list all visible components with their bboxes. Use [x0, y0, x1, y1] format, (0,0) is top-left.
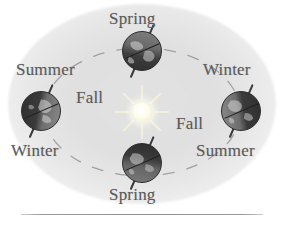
sun	[126, 96, 158, 128]
globe-sphere	[221, 91, 261, 131]
globe-sphere	[21, 91, 61, 131]
globe-bottom	[119, 140, 165, 186]
label-center-left-fall: Fall	[76, 89, 103, 106]
sun-core	[132, 102, 152, 122]
globe-right	[218, 88, 264, 134]
globe-top	[119, 28, 165, 74]
label-upper-right-winter: Winter	[203, 61, 251, 78]
label-top-spring: Spring	[109, 10, 156, 27]
label-upper-left-summer: Summer	[16, 61, 75, 78]
diagram-canvas: Spring Summer Winter Fall Fall Winter Su…	[0, 0, 283, 231]
globe-sphere	[122, 143, 162, 183]
label-lower-right-summer: Summer	[196, 142, 255, 159]
label-bottom-spring: Spring	[109, 186, 156, 203]
label-center-right-fall: Fall	[176, 115, 203, 132]
bottom-divider	[21, 214, 263, 215]
label-lower-left-winter: Winter	[11, 142, 59, 159]
globe-left	[18, 88, 64, 134]
globe-sphere	[122, 31, 162, 71]
